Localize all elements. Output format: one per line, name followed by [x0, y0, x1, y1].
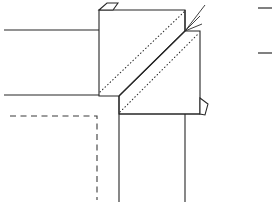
- hidden-outline-path: [10, 116, 97, 200]
- line-drawing-svg: [0, 0, 274, 203]
- bottom-right-flap: [200, 98, 208, 115]
- top-left-flap: [99, 3, 118, 10]
- technical-drawing-canvas: [0, 0, 274, 203]
- leader-arrow-icon: [185, 5, 205, 31]
